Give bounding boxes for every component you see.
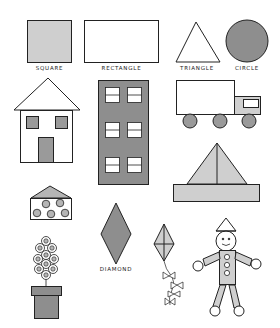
clown-figure-shape: [193, 218, 261, 316]
square-shape: [28, 21, 72, 63]
label-diamond: DIAMOND: [94, 266, 138, 272]
sailboat-shape: [174, 143, 260, 202]
label-triangle: TRIANGLE: [174, 65, 220, 71]
house-shape: [14, 78, 80, 163]
circle-shape: [226, 20, 268, 62]
kite-shape: [154, 224, 183, 305]
truck-shape: [177, 81, 261, 129]
flower-pot-shape: [32, 237, 62, 319]
rectangle-shape: [85, 21, 159, 63]
label-square: SQUARE: [27, 65, 72, 71]
label-rectangle: RECTANGLE: [84, 65, 159, 71]
shapes-worksheet: SQUARE RECTANGLE TRIANGLE CIRCLE DIAMOND: [0, 0, 280, 328]
box-with-circles-shape: [31, 186, 72, 220]
diamond-shape: [101, 203, 131, 264]
triangle-shape: [176, 22, 220, 62]
building-shape: [99, 81, 149, 185]
label-circle: CIRCLE: [226, 65, 268, 71]
